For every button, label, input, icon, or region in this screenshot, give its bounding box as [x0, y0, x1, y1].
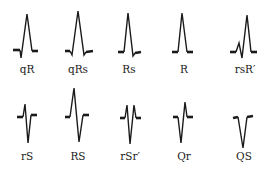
qrs-trace	[23, 104, 31, 143]
waveform-qR: qR	[13, 14, 38, 75]
waveform-QS: QS	[233, 116, 253, 162]
waveform-label: rSr′	[120, 150, 140, 162]
waveform-rS: rS	[17, 104, 37, 162]
waveform-label: RS	[70, 150, 85, 162]
waveform-label: Rs	[122, 63, 135, 75]
qrs-trace	[238, 117, 247, 148]
qrs-trace	[178, 102, 187, 143]
waveform-label: rsR′	[235, 63, 256, 75]
waveform-label: qRs	[68, 63, 88, 75]
baseline-right	[247, 116, 253, 117]
qrs-trace	[70, 11, 86, 55]
qrs-trace	[125, 105, 136, 144]
waveform-canvas: qR qRs Rs R rsR′	[0, 0, 272, 177]
waveform-qRs: qRs	[65, 11, 93, 75]
waveform-R: R	[172, 13, 193, 75]
qrs-trace	[124, 13, 135, 56]
waveform-label: Qr	[177, 150, 192, 162]
qrs-trace	[20, 14, 32, 58]
waveform-label: R	[180, 63, 189, 75]
waveform-rSr-prime: rSr′	[120, 105, 141, 162]
qrs-morphology-figure: qR qRs Rs R rsR′	[0, 0, 272, 177]
waveform-RS: RS	[65, 88, 89, 162]
waveform-Qr: Qr	[173, 102, 193, 162]
qrs-trace	[178, 13, 187, 52]
baseline-left	[233, 117, 238, 118]
waveform-label: QS	[236, 150, 252, 162]
qrs-trace	[70, 88, 83, 142]
waveform-Rs: Rs	[118, 13, 141, 75]
waveform-label: rS	[21, 150, 33, 162]
baseline-right	[135, 52, 141, 53]
qrs-trace	[236, 15, 251, 58]
waveform-label: qR	[20, 63, 36, 75]
waveform-rsR-prime: rsR′	[230, 15, 257, 75]
baseline-right	[86, 51, 93, 52]
